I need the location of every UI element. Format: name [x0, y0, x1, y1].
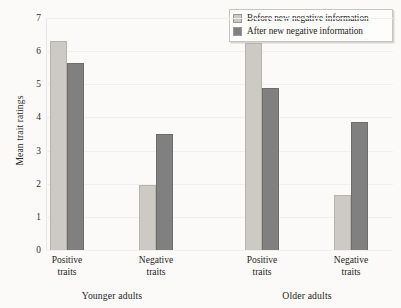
- category-line-2: traits: [219, 266, 305, 278]
- gridline-6: [46, 51, 393, 52]
- gridline-7: [46, 18, 393, 19]
- chart-figure: Before new negative information After ne…: [0, 0, 401, 308]
- category-label-younger-negative: Negative traits: [113, 254, 199, 278]
- category-line-1: Negative: [308, 254, 394, 266]
- bar-younger-negative-before: [139, 185, 156, 250]
- panel-label-older-adults: Older adults: [227, 290, 387, 301]
- gridline-4: [46, 117, 393, 118]
- bar-younger-positive-before: [50, 41, 67, 250]
- category-line-1: Positive: [219, 254, 305, 266]
- category-line-2: traits: [24, 266, 110, 278]
- y-tick-1: 1: [36, 212, 41, 222]
- category-line-2: traits: [113, 266, 199, 278]
- y-tick-4: 4: [36, 112, 41, 122]
- category-line-2: traits: [308, 266, 394, 278]
- y-axis-title: Mean trait ratings: [14, 66, 25, 196]
- y-tick-5: 5: [36, 79, 41, 89]
- bar-younger-positive-after: [67, 63, 84, 250]
- bar-older-positive-before: [245, 43, 262, 250]
- category-label-younger-positive: Positive traits: [24, 254, 110, 278]
- y-axis-line: [46, 18, 47, 250]
- gridline-2: [46, 184, 393, 185]
- category-line-1: Positive: [24, 254, 110, 266]
- bar-older-negative-before: [334, 195, 351, 250]
- gridline-5: [46, 84, 393, 85]
- gridline-3: [46, 151, 393, 152]
- y-tick-6: 6: [36, 46, 41, 56]
- panel-label-younger-adults: Younger adults: [32, 290, 192, 301]
- category-label-older-positive: Positive traits: [219, 254, 305, 278]
- bar-older-negative-after: [351, 122, 368, 250]
- plot-area: 7 6 5 4 3 2 1 0 Positive traits: [46, 18, 393, 250]
- category-line-1: Negative: [113, 254, 199, 266]
- y-tick-2: 2: [36, 179, 41, 189]
- category-label-older-negative: Negative traits: [308, 254, 394, 278]
- bar-older-positive-after: [262, 88, 279, 250]
- bar-younger-negative-after: [156, 134, 173, 250]
- y-tick-3: 3: [36, 146, 41, 156]
- y-tick-7: 7: [36, 13, 41, 23]
